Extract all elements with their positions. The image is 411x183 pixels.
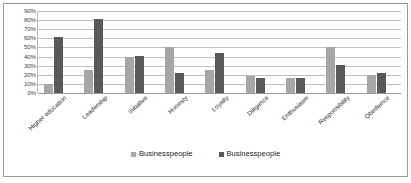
bar-group: [361, 11, 401, 93]
bar: [367, 75, 376, 93]
bar: [94, 19, 103, 93]
caption-strip: [6, 178, 406, 183]
bar: [125, 57, 134, 93]
plot-area: [37, 11, 401, 93]
legend-item[interactable]: Businesspeople: [131, 150, 193, 158]
bar: [326, 47, 335, 93]
bar: [84, 70, 93, 93]
x-axis: Higher educationLeadershipInitiativeHone…: [37, 94, 400, 142]
chart-plot-wrapper: 90%80%70%60%50%40%30%20%10%0% Higher edu…: [0, 0, 411, 183]
bar: [256, 78, 265, 93]
y-tick-label: 30%: [9, 63, 36, 69]
bar: [296, 78, 305, 93]
bar: [135, 56, 144, 93]
bar-group: [38, 11, 78, 93]
y-tick-label: 40%: [9, 54, 36, 60]
y-tick-label: 60%: [9, 35, 36, 41]
bar: [205, 70, 214, 93]
bar: [175, 73, 184, 93]
bar: [286, 78, 295, 93]
chart-container: 90%80%70%60%50%40%30%20%10%0% Higher edu…: [0, 0, 411, 183]
bar-group: [159, 11, 199, 93]
bar: [54, 37, 63, 93]
bar: [246, 76, 255, 93]
bar-group: [119, 11, 159, 93]
y-tick-label: 80%: [9, 17, 36, 23]
chart-legend: BusinesspeopleBusinesspeople: [0, 150, 411, 158]
legend-label: Businesspeople: [139, 150, 193, 158]
y-tick-label: 10%: [9, 81, 36, 87]
legend-swatch-icon: [131, 152, 136, 157]
y-tick-label: 50%: [9, 44, 36, 50]
bars-layer: [38, 11, 401, 93]
bar: [165, 47, 174, 93]
y-tick-label: 90%: [9, 8, 36, 14]
bar: [336, 65, 345, 93]
bar: [44, 84, 53, 93]
y-tick-label: 20%: [9, 72, 36, 78]
bar-group: [240, 11, 280, 93]
legend-label: Businesspeople: [227, 150, 281, 158]
bar-group: [199, 11, 239, 93]
y-tick-label: 70%: [9, 26, 36, 32]
y-tick-label: 0%: [9, 90, 36, 96]
bar: [215, 53, 224, 93]
bar-group: [78, 11, 118, 93]
bar-group: [280, 11, 320, 93]
legend-item[interactable]: Businesspeople: [219, 150, 281, 158]
bar-group: [320, 11, 360, 93]
y-axis: 90%80%70%60%50%40%30%20%10%0%: [9, 9, 36, 93]
legend-swatch-icon: [219, 152, 224, 157]
bar: [377, 73, 386, 93]
